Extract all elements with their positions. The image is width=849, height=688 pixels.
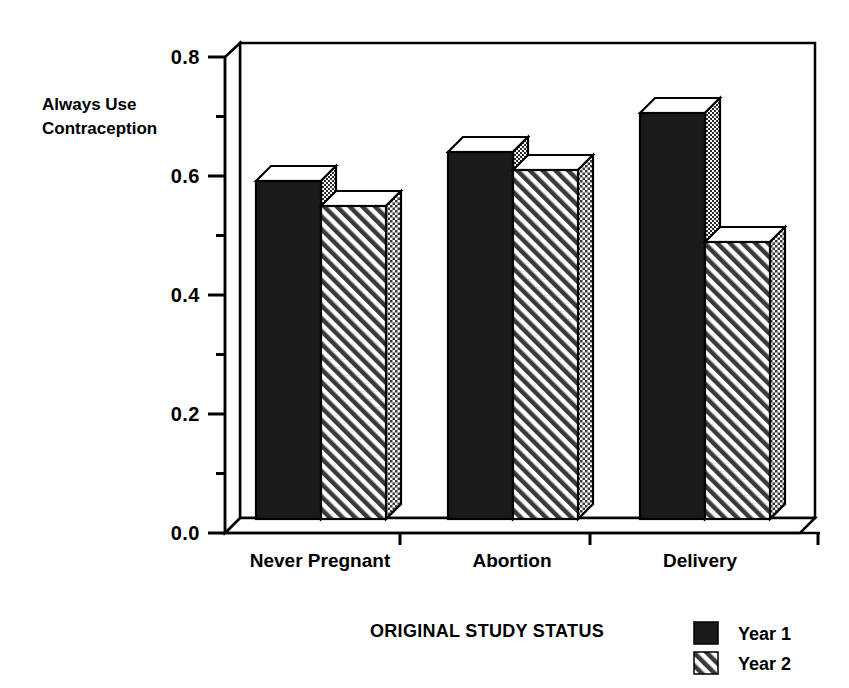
y-tick-label-3: 0.2 (171, 403, 200, 425)
chart-canvas: 0.8 0.6 0.4 0.2 0.0 Always Use Contracep… (0, 0, 849, 688)
legend-label-year-2: Year 2 (738, 654, 791, 674)
y-axis (208, 57, 225, 533)
y-axis-title-line-2: Contraception (42, 119, 157, 138)
y-tick-label-2: 0.4 (171, 284, 201, 306)
y-axis-title-line-1: Always Use (42, 95, 137, 114)
bar-group-abortion (448, 137, 593, 519)
y-tick-label-0: 0.8 (171, 46, 200, 68)
legend-label-year-1: Year 1 (738, 624, 791, 644)
bar-delivery-year-2 (705, 227, 785, 519)
x-category-label-abortion: Abortion (472, 550, 551, 571)
bar-group-never-pregnant (256, 166, 401, 519)
y-tick-label-4: 0.0 (171, 522, 200, 544)
x-category-label-delivery: Delivery (663, 550, 737, 571)
x-axis-title: ORIGINAL STUDY STATUS (370, 621, 604, 641)
y-tick-label-1: 0.6 (171, 165, 200, 187)
legend-swatch-year-1 (694, 622, 718, 644)
x-category-label-never-pregnant: Never Pregnant (250, 550, 391, 571)
x-axis (225, 533, 820, 545)
bar-never-pregnant-year-2 (321, 191, 401, 519)
bar-abortion-year-2 (513, 155, 593, 519)
legend: Year 1 Year 2 (694, 622, 791, 674)
legend-swatch-year-2 (694, 652, 718, 674)
bar-chart-figure: 0.8 0.6 0.4 0.2 0.0 Always Use Contracep… (0, 0, 849, 688)
